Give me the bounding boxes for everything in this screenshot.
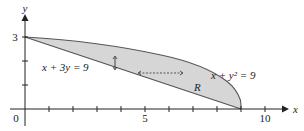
- y-tick-label-3: 3: [12, 31, 18, 43]
- origin-label: 0: [13, 112, 19, 124]
- x-tick-label-5: 5: [142, 112, 148, 124]
- region-label: R: [193, 81, 201, 93]
- x-axis-label: x: [292, 103, 298, 115]
- region-diagram: 0 5 10 3 x y x + 3y = 9 x + y² = 9 R: [0, 0, 304, 131]
- y-axis-arrow-icon: [22, 14, 29, 21]
- x-axis-arrow-icon: [282, 106, 289, 113]
- parabola-equation-label: x + y² = 9: [210, 69, 256, 81]
- line-equation-label: x + 3y = 9: [41, 61, 89, 73]
- y-axis-label: y: [22, 2, 28, 14]
- x-tick-label-10: 10: [260, 112, 272, 124]
